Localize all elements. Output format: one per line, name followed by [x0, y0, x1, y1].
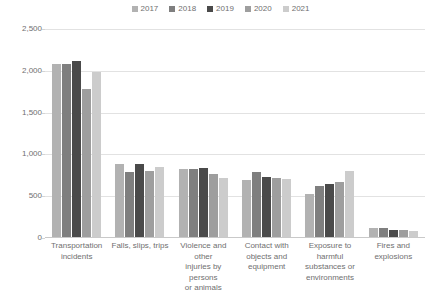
x-axis-label: Exposure toharmfulsubstances orenvironme…: [298, 241, 361, 294]
bar-2020[interactable]: [272, 178, 281, 238]
bar-2021[interactable]: [92, 72, 101, 238]
legend-swatch-icon: [207, 6, 213, 12]
x-axis-label-line: harmful: [300, 252, 359, 263]
legend-label: 2020: [254, 4, 272, 13]
bar-chart: 20172018201920202021 05001,0001,5002,000…: [0, 0, 441, 306]
legend-item-2018[interactable]: 2018: [169, 4, 196, 13]
bar-group: [108, 29, 171, 238]
legend-item-2020[interactable]: 2020: [245, 4, 272, 13]
bar-group: [45, 29, 108, 238]
bar-2019[interactable]: [72, 61, 81, 238]
x-axis-label-line: substances or: [300, 262, 359, 273]
bar-2018[interactable]: [252, 172, 261, 238]
x-axis-label-line: objects and: [237, 252, 296, 263]
bar-2021[interactable]: [219, 178, 228, 238]
legend-label: 2018: [178, 4, 196, 13]
bar-2018[interactable]: [125, 172, 134, 238]
x-axis-label-line: explosions: [364, 252, 423, 263]
bar-2018[interactable]: [62, 64, 71, 238]
bar-group: [172, 29, 235, 238]
bar-group: [362, 29, 425, 238]
x-axis-label: Violence and otherinjuries by personsor …: [172, 241, 235, 294]
x-axis-label: Fires andexplosions: [362, 241, 425, 294]
bar-2018[interactable]: [315, 186, 324, 238]
legend-label: 2017: [141, 4, 159, 13]
y-tick-label: 2,500: [2, 24, 42, 33]
legend-item-2021[interactable]: 2021: [283, 4, 310, 13]
y-tick-label: 500: [2, 191, 42, 200]
x-axis-label-line: equipment: [237, 262, 296, 273]
bar-group: [235, 29, 298, 238]
bar-2017[interactable]: [52, 64, 61, 238]
x-axis-label-line: Falls, slips, trips: [110, 241, 169, 252]
bar-2021[interactable]: [282, 179, 291, 238]
bar-2017[interactable]: [115, 164, 124, 238]
bar-2017[interactable]: [242, 180, 251, 238]
bar-2020[interactable]: [82, 89, 91, 238]
x-axis-label: Contact withobjects andequipment: [235, 241, 298, 294]
legend-item-2017[interactable]: 2017: [132, 4, 159, 13]
bar-groups: [45, 29, 425, 238]
legend-label: 2019: [216, 4, 234, 13]
bar-2019[interactable]: [199, 168, 208, 238]
x-axis-label-line: Fires and: [364, 241, 423, 252]
bar-2021[interactable]: [155, 167, 164, 238]
y-tick-label: 1,000: [2, 149, 42, 158]
bar-2019[interactable]: [135, 164, 144, 238]
x-axis-label-line: or animals: [174, 283, 233, 294]
bar-2020[interactable]: [209, 174, 218, 238]
bar-2019[interactable]: [262, 177, 271, 238]
bar-2020[interactable]: [145, 171, 154, 238]
bar-2021[interactable]: [345, 171, 354, 238]
y-tick-label: 1,500: [2, 108, 42, 117]
legend-item-2019[interactable]: 2019: [207, 4, 234, 13]
legend-swatch-icon: [132, 6, 138, 12]
legend-swatch-icon: [283, 6, 289, 12]
axis-baseline: [45, 237, 425, 238]
chart-legend: 20172018201920202021: [0, 4, 441, 13]
y-tick-mark: [42, 238, 45, 239]
x-axis-label-line: Exposure to: [300, 241, 359, 252]
plot-area: [45, 29, 425, 238]
x-axis-label-line: Transportation: [47, 241, 106, 252]
bar-2019[interactable]: [325, 184, 334, 238]
legend-swatch-icon: [245, 6, 251, 12]
x-axis-label-line: Contact with: [237, 241, 296, 252]
x-axis-label-line: injuries by persons: [174, 262, 233, 283]
x-axis-label-line: incidents: [47, 252, 106, 263]
legend-swatch-icon: [169, 6, 175, 12]
bar-2018[interactable]: [189, 169, 198, 238]
x-axis-label: Transportationincidents: [45, 241, 108, 294]
bar-2017[interactable]: [305, 194, 314, 238]
legend-label: 2021: [292, 4, 310, 13]
bar-2020[interactable]: [335, 182, 344, 238]
x-axis-label-line: Violence and other: [174, 241, 233, 262]
bar-group: [298, 29, 361, 238]
y-tick-label: 0: [2, 233, 42, 242]
bar-2017[interactable]: [179, 169, 188, 238]
y-tick-label: 2,000: [2, 66, 42, 75]
x-axis-label-line: environments: [300, 273, 359, 284]
x-axis-label: Falls, slips, trips: [108, 241, 171, 294]
y-axis: 05001,0001,5002,0002,500: [0, 29, 42, 238]
x-axis-labels: TransportationincidentsFalls, slips, tri…: [45, 241, 425, 294]
